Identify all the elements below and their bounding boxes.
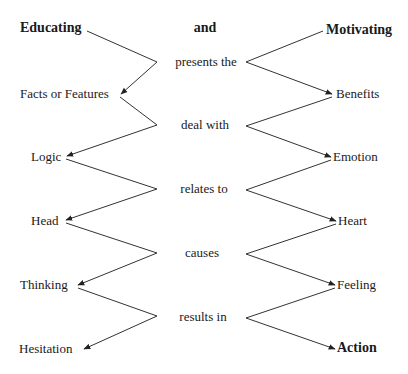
left-item-thinking: Thinking [20,277,68,293]
left-item-facts-or-features: Facts or Features [20,86,109,102]
right-item-emotion: Emotion [333,149,378,165]
connector-results-in: results in [179,309,226,325]
left-item-head: Head [31,213,58,229]
connector-deal-with: deal with [181,117,229,133]
title-motivating: Motivating [326,22,392,38]
connector-relates-to: relates to [180,181,227,197]
right-item-action: Action [337,340,377,356]
right-item-feeling: Feeling [337,277,376,293]
right-item-benefits: Benefits [336,86,379,102]
right-item-heart: Heart [338,213,367,229]
connector-presents-the: presents the [175,54,237,70]
left-item-hesitation: Hesitation [19,341,72,357]
title-and: and [194,20,217,36]
title-educating: Educating [20,20,81,36]
connector-causes: causes [185,245,219,261]
left-item-logic: Logic [31,149,61,165]
